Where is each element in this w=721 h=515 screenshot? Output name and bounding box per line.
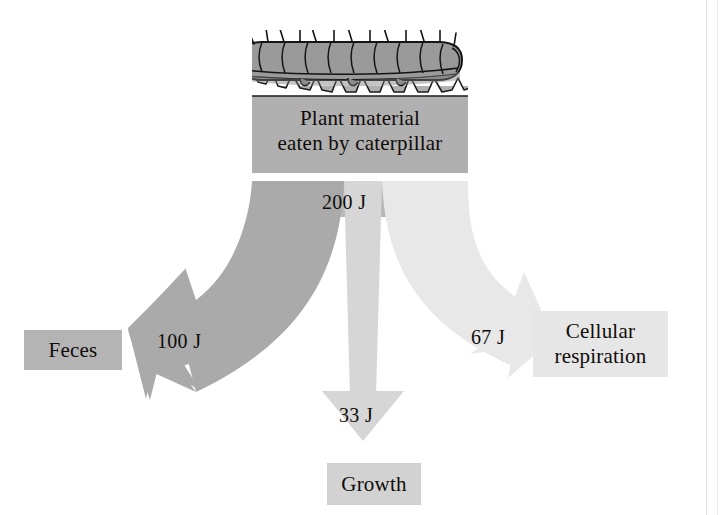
destination-box-cellular-respiration: Cellular respiration <box>533 311 668 377</box>
cellular-respiration-line1: Cellular <box>566 319 635 343</box>
destination-box-growth: Growth <box>327 463 421 505</box>
source-label-line1: Plant material <box>300 106 420 130</box>
flow-feces <box>128 181 344 400</box>
flow-value-cellular-respiration: 67 J <box>471 326 505 350</box>
energy-flow-diagram: Plant material eaten by caterpillar 200 … <box>0 0 721 515</box>
cellular-respiration-line2: respiration <box>554 344 646 368</box>
flow-artwork <box>0 0 721 515</box>
destination-box-feces: Feces <box>24 330 122 370</box>
source-label-line2: eaten by caterpillar <box>278 131 443 155</box>
caterpillar-illustration <box>233 27 470 96</box>
flow-value-growth: 33 J <box>339 404 373 428</box>
source-label: Plant material eaten by caterpillar <box>252 106 468 156</box>
flow-value-feces: 100 J <box>157 330 201 354</box>
flow-cellular-respiration <box>382 181 554 378</box>
flow-value-intake: 200 J <box>322 191 366 215</box>
